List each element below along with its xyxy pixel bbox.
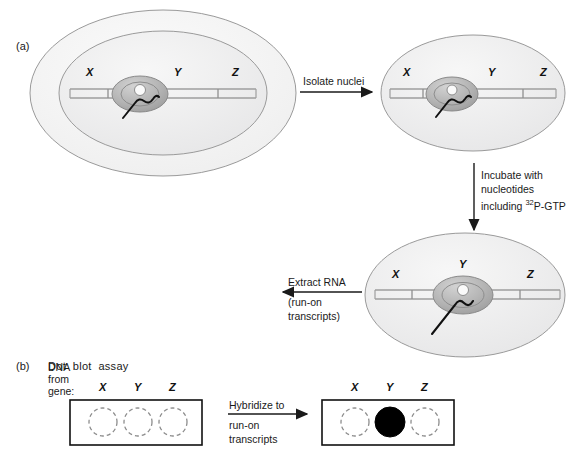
step-hybridize-line-2: run-on: [229, 419, 259, 432]
gene-label-x-cell-1: X: [86, 66, 93, 78]
step-extract-rna-line-3: transcripts): [288, 310, 340, 323]
cell-intact: [30, 10, 296, 176]
cell-incubated-nucleus: [365, 233, 565, 357]
gene-label-x-cell-2: X: [403, 66, 410, 78]
step-incubate-line-3: including 32P-GTP: [481, 197, 566, 212]
step-hybridize-line-1: Hybridize to: [229, 399, 284, 412]
dna-from-gene-line-2: from: [48, 373, 69, 385]
dot-blot-after-header-y: Y: [386, 381, 393, 393]
gene-label-z-cell-3: Z: [527, 268, 534, 280]
gene-label-y-cell-2: Y: [488, 66, 495, 78]
panel-letter-b: (b): [16, 360, 29, 372]
step-hybridize-line-3: transcripts: [229, 433, 277, 446]
dot-blot-before-panel: [70, 400, 202, 445]
gene-label-y-cell-3: Y: [459, 258, 466, 270]
step-extract-rna-line-1: Extract RNA: [288, 276, 346, 289]
step-incubate-line-3-pre: including: [481, 200, 525, 212]
figure-root: (a) (b) Dot blot assay X Y Z X Y Z X Y Z…: [0, 0, 571, 460]
step-incubate-line-3-post: P-GTP: [534, 200, 566, 212]
gene-label-y-cell-1: Y: [174, 66, 181, 78]
dna-from-gene-line-1: DNA: [48, 361, 70, 373]
isotope-superscript: 32: [525, 198, 533, 207]
step-isolate-nuclei-label: Isolate nuclei: [303, 75, 364, 88]
cell-isolated-nucleus: [381, 35, 565, 151]
dot-blot-after-header-x: X: [351, 381, 358, 393]
dot-blot-before-header-y: Y: [134, 381, 141, 393]
step-incubate-line-2: nucleotides: [481, 183, 534, 196]
gene-label-z-cell-2: Z: [540, 66, 547, 78]
step-extract-rna-line-2: (run-on: [288, 296, 322, 309]
dot-blot-before-header-x: X: [99, 381, 106, 393]
gene-label-x-cell-3: X: [392, 268, 399, 280]
panel-letter-a: (a): [16, 40, 29, 52]
step-incubate-line-1: Incubate with: [481, 169, 543, 182]
gene-label-z-cell-1: Z: [232, 66, 239, 78]
dot-blot-after-panel: [322, 400, 454, 445]
dot-blot-before-header-z: Z: [169, 381, 176, 393]
dna-from-gene-line-3: gene:: [48, 385, 74, 397]
dot-blot-after-header-z: Z: [421, 381, 428, 393]
